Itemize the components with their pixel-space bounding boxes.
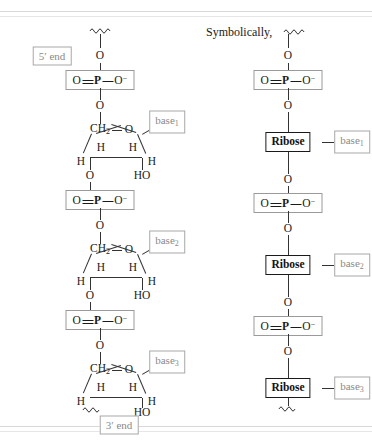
double-bond-icon-3 [82,317,93,326]
ring-bond-c1-c2-1 [137,134,146,154]
bond-c3-o-2 [90,278,91,290]
bond-ribose2-to-o5 [288,275,289,297]
ring-bond-c1-c2-3 [137,374,146,394]
hydrogen-outer-left-2: H [77,276,85,288]
bond-ch2-ringo-1 [112,130,122,131]
base-label-sym-3: base3 [334,377,370,400]
single-bond-icon-3 [102,317,113,326]
bond-ribose1-to-o3 [288,152,289,174]
oxygen-atom-3prime-2: O [86,290,94,302]
ring-bond-c3-c2-1 [90,157,142,158]
ribose-box-3: Ribose [265,378,310,398]
oxygen-atom-bridge-2-sym: O [284,174,292,186]
base-text-sym-2: base [340,257,360,269]
base-label-sym-1: base1 [334,131,370,154]
base-subscript-1: 1 [175,119,179,128]
phosphate3-charge: − [123,314,128,323]
phosphorus-atom-2: P [94,194,101,206]
phosphate-left-oxygen: O [73,74,82,86]
bond-o2-to-ribose1 [288,112,289,134]
phosphate-group-3-sym: OPO− [254,316,323,336]
phosphate-sym1-left-oxygen: O [261,74,270,86]
base-subscript-sym-1: 1 [360,139,364,148]
base-subscript-3: 3 [175,359,179,368]
phosphate2-left-oxygen: O [73,194,82,206]
bond-squiggle-to-o1-sym [288,34,289,48]
phosphorus-atom: P [94,74,101,86]
double-bond-icon-sym-3 [270,323,281,332]
bond-o6-to-ribose3 [288,358,289,380]
phosphate-sym3-charge: − [311,320,316,329]
phosphate3-right-oxygen: O [114,314,123,326]
hydrogen-inner-left-3: H [97,382,105,394]
phosphate-sym2-left-oxygen: O [261,197,270,209]
phosphate-sym1-charge: − [311,74,316,83]
oxygen-atom-bridge-2: O [96,220,104,232]
base-text-sym-3: base [340,380,360,392]
three-prime-squiggle-sym [278,405,298,413]
phosphate-group-1-sym: OPO− [254,70,323,90]
double-bond-icon-sym-1 [270,77,281,86]
bond-ribose3-base3 [322,388,334,389]
double-bond-icon [82,77,93,86]
phosphate-charge: − [123,74,128,83]
oxygen-atom-bridge-1: O [96,100,104,112]
bond-c2-oh-2 [142,278,143,290]
oxygen-atom-bridge-1-sym: O [284,100,292,112]
bond-squiggle-to-o1 [100,34,101,48]
ring-bond-c1-c2-2 [137,254,146,274]
ring-bond-c4-c3-3 [83,374,92,394]
double-bond-icon-2 [82,197,93,206]
hydrogen-inner-left-1: H [97,142,105,154]
base-label-3: base3 [149,351,185,374]
bond-p3-to-o4 [100,328,101,340]
ribose-box-2: Ribose [265,255,310,275]
oxygen-atom-3prime-1: O [86,170,94,182]
base-label-2: base2 [149,231,185,254]
ring-bond-c4-c3-1 [83,134,92,154]
base-subscript-sym-2: 2 [360,262,364,271]
single-bond-icon [102,77,113,86]
bond-c3-o-1 [90,158,91,170]
bond-ribose1-base1 [322,142,334,143]
phosphate-group-2: OPO− [66,190,135,210]
bond-ch2-ringo-3 [112,370,122,371]
bond-p1-to-o2-sym [288,88,289,100]
base-subscript-sym-3: 3 [360,385,364,394]
figure-canvas: Symbolically, 5′ end O OPO− O CH2 O [0,0,372,442]
oxygen-atom-5prime: O [96,50,104,62]
phosphate-group-3: OPO− [66,310,135,330]
hydrogen-inner-left-2: H [97,262,105,274]
hydrogen-inner-right-3: H [129,382,137,394]
base-label-sym-2: base2 [334,254,370,277]
phosphorus-atom-3: P [94,314,101,326]
symbolically-heading: Symbolically, [206,26,272,39]
base-text-3: base [155,354,175,366]
five-prime-end-label: 5′ end [33,47,72,66]
hydroxyl-group-2: HO [134,290,151,302]
phosphate-sym3-right-oxygen: O [302,320,311,332]
base-text-sym-1: base [340,134,360,146]
double-bond-icon-sym-2 [270,200,281,209]
bond-p1-to-o2 [100,88,101,100]
phosphate2-right-oxygen: O [114,194,123,206]
single-bond-icon-2 [102,197,113,206]
base-label-1: base1 [149,111,185,134]
phosphorus-atom-sym-1: P [282,74,289,86]
hydrogen-inner-right-1: H [129,142,137,154]
oxygen-atom-bridge-5-sym: O [284,346,292,358]
top-rule-upper [0,11,372,12]
base-text-2: base [155,234,175,246]
bond-c2-oh-1 [142,158,143,170]
bottom-rule-upper [0,426,372,427]
single-bond-icon-sym-2 [290,200,301,209]
single-bond-icon-sym-3 [290,323,301,332]
oxygen-atom-5prime-sym: O [284,50,292,62]
ring-bond-c3-c2-3 [90,397,142,398]
ring-bond-c3-c2-2 [90,277,142,278]
oxygen-atom-bridge-4-sym: O [284,297,292,309]
bottom-rule-lower [0,431,372,432]
base-subscript-2: 2 [175,239,179,248]
hydrogen-outer-right-1: H [148,156,156,168]
hydrogen-inner-right-2: H [129,262,137,274]
